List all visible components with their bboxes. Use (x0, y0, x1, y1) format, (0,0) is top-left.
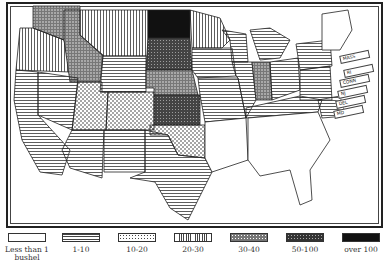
legend-label: 50-100 (282, 246, 328, 254)
state-south-dakota (146, 38, 192, 70)
legend-item-10-20: 10-20 (114, 233, 160, 254)
legend-label: Less than 1bushel (4, 246, 50, 262)
state-new-mexico (104, 130, 145, 172)
state-minnesota (190, 10, 230, 48)
legend-label: over 100 (338, 246, 384, 254)
swatch-blank (8, 233, 46, 242)
legend-item-1-10: 1-10 (58, 233, 104, 254)
swatch-light-dots (118, 233, 156, 242)
state-ohio (270, 58, 300, 100)
swatch-solid-black (342, 233, 380, 242)
legend-label: 30-40 (226, 246, 272, 254)
legend-item-50-100: 50-100 (282, 233, 328, 254)
state-iowa (192, 48, 236, 78)
state-arkansas-louisiana (205, 118, 248, 172)
state-michigan (250, 28, 290, 60)
legend-label: 20-30 (170, 246, 216, 254)
state-deep-south (248, 112, 330, 205)
us-wheat-map (0, 0, 390, 232)
swatch-dense-dots (230, 233, 268, 242)
state-nebraska (146, 70, 198, 95)
swatch-vertical-lines (174, 233, 212, 242)
state-kansas (154, 95, 200, 125)
state-indiana (252, 62, 272, 100)
state-colorado (106, 92, 154, 130)
state-missouri (198, 78, 246, 122)
legend-item-less-than-1: Less than 1bushel (4, 233, 50, 262)
legend-label: 1-10 (58, 246, 104, 254)
legend-item-over-100: over 100 (338, 233, 384, 254)
state-wyoming (100, 56, 146, 92)
legend-item-20-30: 20-30 (170, 233, 216, 254)
legend-item-30-40: 30-40 (226, 233, 272, 254)
state-arizona (62, 130, 104, 178)
swatch-dark-dots (286, 233, 324, 242)
state-north-dakota (148, 10, 190, 38)
state-virginia-wv (300, 66, 332, 100)
legend-label: 10-20 (114, 246, 160, 254)
states-layer (14, 6, 352, 220)
legend: Less than 1bushel 1-10 10-20 20-30 30-40… (0, 233, 390, 275)
state-new-england (322, 10, 352, 50)
swatch-horizontal-lines (62, 233, 100, 242)
